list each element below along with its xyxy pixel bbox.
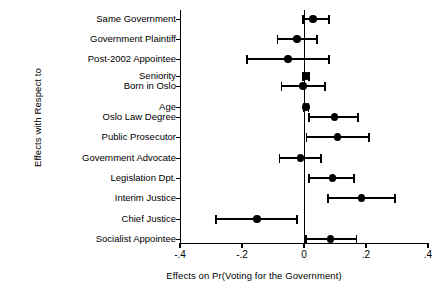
- x-axis-tick-label: -.4: [160, 249, 200, 260]
- confidence-interval-cap-low: [215, 215, 217, 224]
- point-estimate-marker: [293, 35, 301, 43]
- error-bar-row: [180, 178, 428, 179]
- error-bar-row: [180, 198, 428, 199]
- confidence-interval-cap-low: [302, 15, 304, 24]
- error-bar-row: [180, 86, 428, 87]
- point-estimate-marker: [284, 55, 292, 63]
- confidence-interval-cap-high: [316, 35, 318, 44]
- point-estimate-marker: [358, 194, 366, 202]
- error-bar-row: [180, 39, 428, 40]
- error-bar-row: [180, 219, 428, 220]
- x-axis-tick: [179, 243, 180, 248]
- confidence-interval-plot: Effects with Respect to Same GovernmentG…: [0, 0, 438, 301]
- confidence-interval-cap-high: [296, 215, 298, 224]
- category-label: Interim Justice: [115, 193, 176, 203]
- x-axis-tick-label: .4: [408, 249, 438, 260]
- x-axis-tick: [427, 243, 428, 248]
- category-label: Same Government: [96, 14, 176, 24]
- confidence-interval-cap-high: [357, 113, 359, 122]
- point-estimate-marker: [327, 235, 335, 243]
- error-bar-row: [180, 76, 428, 77]
- confidence-interval-cap-high: [320, 154, 322, 163]
- error-bar-row: [180, 239, 428, 240]
- category-label: Chief Justice: [122, 214, 176, 224]
- category-label: Socialist Appointee: [96, 234, 176, 244]
- y-axis-tick-labels: Same GovernmentGovernment PlaintiffPost-…: [24, 0, 176, 245]
- point-estimate-marker: [297, 154, 305, 162]
- x-axis-tick-label: -.2: [222, 249, 262, 260]
- zero-reference-line: [304, 10, 305, 243]
- confidence-interval-cap-high: [324, 82, 326, 91]
- error-bar-row: [180, 137, 428, 138]
- confidence-interval-cap-low: [308, 174, 310, 183]
- x-axis-tick-label: .2: [346, 249, 386, 260]
- category-label: Born in Oslo: [124, 81, 176, 91]
- error-bar-row: [180, 107, 428, 108]
- confidence-interval-cap-low: [279, 154, 281, 163]
- confidence-interval-cap-high: [328, 15, 330, 24]
- confidence-interval-cap-low: [306, 133, 308, 142]
- error-bar-row: [180, 117, 428, 118]
- point-estimate-marker: [299, 82, 307, 90]
- point-estimate-marker: [302, 72, 310, 80]
- category-label: Public Prosecutor: [102, 132, 176, 142]
- error-bar-row: [180, 59, 428, 60]
- error-bar-row: [180, 19, 428, 20]
- point-estimate-marker: [334, 133, 342, 141]
- point-estimate-marker: [329, 174, 337, 182]
- confidence-interval-cap-high: [368, 133, 370, 142]
- confidence-interval-cap-low: [281, 82, 283, 91]
- y-axis-spine: [180, 10, 181, 243]
- error-bar-row: [180, 158, 428, 159]
- x-axis-tick: [303, 243, 304, 248]
- category-label: Legislation Dpt.: [111, 173, 176, 183]
- confidence-interval-cap-low: [246, 55, 248, 64]
- category-label: Post-2002 Appointee: [88, 54, 176, 64]
- x-axis-tick: [241, 243, 242, 248]
- point-estimate-marker: [253, 215, 261, 223]
- confidence-interval-cap-low: [277, 35, 279, 44]
- category-label: Oslo Law Degree: [103, 112, 176, 122]
- point-estimate-marker: [302, 103, 310, 111]
- point-estimate-marker: [331, 113, 339, 121]
- confidence-interval-cap-low: [308, 113, 310, 122]
- x-axis-tick: [365, 243, 366, 248]
- confidence-interval-cap-high: [394, 194, 396, 203]
- category-label: Government Advocate: [82, 153, 176, 163]
- x-axis-title: Effects on Pr(Voting for the Government): [0, 270, 438, 281]
- confidence-interval-cap-high: [353, 174, 355, 183]
- category-label: Government Plaintiff: [90, 34, 176, 44]
- x-axis-tick-label: 0: [284, 249, 324, 260]
- confidence-interval-cap-low: [327, 194, 329, 203]
- point-estimate-marker: [309, 15, 317, 23]
- confidence-interval-cap-high: [328, 55, 330, 64]
- plot-area: [180, 10, 428, 243]
